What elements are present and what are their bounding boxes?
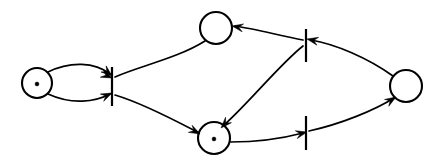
- places-layer: [22, 12, 422, 154]
- arc-place-left-to-transition-left: [48, 64, 110, 74]
- diagram-canvas: [0, 0, 433, 166]
- place-top[interactable]: [200, 12, 232, 44]
- arrowheads-layer: [100, 22, 398, 138]
- place-top-circle[interactable]: [200, 12, 232, 44]
- petri-net-svg: [0, 0, 433, 166]
- arc-place-right-to-transition-upper-right: [311, 40, 393, 76]
- arc-transition-lower-right-to-place-right: [309, 98, 394, 131]
- arc-place-bottom-center-to-transition-lower-right: [230, 133, 303, 142]
- arc-place-bottom-center-to-transition-left: [48, 94, 110, 101]
- arc-transition-upper-right-to-place-top: [235, 26, 303, 40]
- arc-place-top-to-transition-left: [115, 41, 205, 77]
- place-bottom-center-token-0: [212, 137, 216, 141]
- arc-place-right-to-transition-upper-right-arrowhead: [306, 35, 318, 45]
- place-left-token-0: [35, 82, 39, 86]
- arc-transition-left-to-place-bottom-center: [115, 95, 199, 133]
- arc-transition-upper-right-to-place-bottom-center: [223, 46, 303, 126]
- place-bottom-center[interactable]: [198, 122, 230, 154]
- place-left[interactable]: [22, 68, 52, 98]
